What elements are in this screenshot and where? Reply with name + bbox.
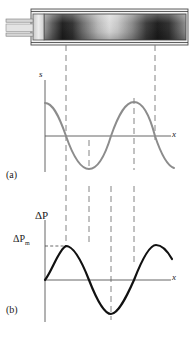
panel-a-x-axis-label: x [172,130,176,139]
panel-b-pressure [45,220,172,322]
projection-lines [66,45,155,320]
panel-b-curve [45,245,172,314]
panel-b-amplitude-label-subscript: m [25,240,30,246]
panel-b-y-axis-label: ΔP [35,210,48,221]
piston-rod-upper [6,19,33,22]
panel-b-amplitude-label-main: ΔP [13,233,25,244]
tube-assembly [6,9,188,45]
piston-rod-lower [6,33,33,36]
panel-b-amplitude-label: ΔPm [13,234,30,246]
figure-canvas [0,0,191,339]
panel-a-curve [45,102,174,169]
piston-diaphragm [33,14,44,40]
tube-inner-shading [44,14,186,40]
panel-a-y-axis-label: s [39,70,43,79]
panel-a-caption: (a) [6,170,17,180]
panel-b-caption: (b) [6,305,18,315]
panel-b-x-axis-label: x [172,273,176,282]
piston-rod-body [6,24,33,32]
physics-figure-sound-wave: s x (a) ΔP ΔPm x (b) [0,0,191,339]
